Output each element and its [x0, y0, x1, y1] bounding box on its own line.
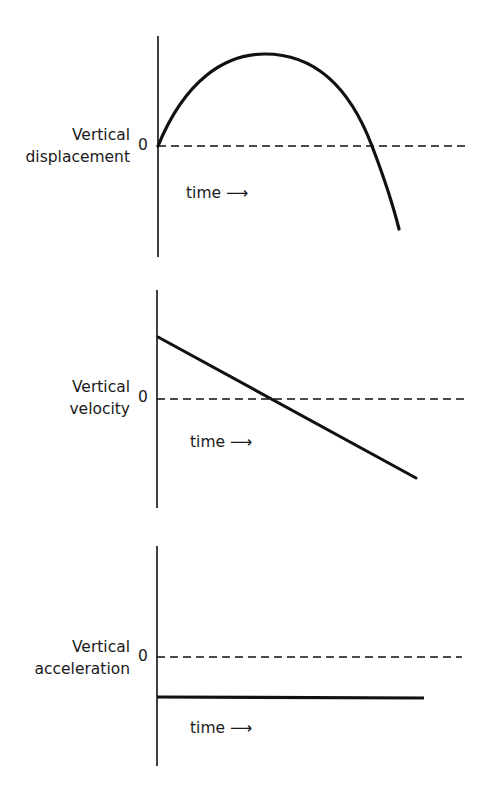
acceleration-line: [157, 697, 424, 698]
displacement-curve: [158, 54, 399, 229]
diagram-graphics: [0, 0, 496, 803]
velocity-line: [158, 337, 416, 478]
